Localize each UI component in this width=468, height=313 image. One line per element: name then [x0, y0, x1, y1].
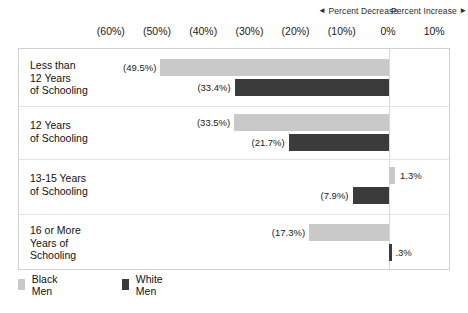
legend-item-black-men[interactable]: Black Men — [18, 278, 62, 291]
x-axis-tick-labels: (60%)(50%)(40%)(30%)(20%)(10%)0%10% — [0, 25, 468, 41]
legend-swatch-white-men — [122, 279, 129, 290]
percent-decrease-label: Percent Decrease — [329, 6, 399, 16]
chart-row: 12 Years of Schooling(33.5%)(21.7%) — [19, 106, 449, 159]
chart-row: 13-15 Years of Schooling1.3%(7.9%) — [19, 159, 449, 214]
category-label: 13-15 Years of Schooling — [30, 172, 88, 197]
right-arrow-icon: ► — [459, 6, 467, 15]
x-axis-tick-neg30: (30%) — [235, 25, 263, 37]
percent-decrease-annotation: ◄ Percent Decrease — [318, 6, 398, 16]
bar-value-black-men: (49.5%) — [123, 59, 160, 76]
legend-swatch-black-men — [18, 279, 25, 290]
left-arrow-icon: ◄ — [318, 6, 326, 15]
plot-area: Less than 12 Years of Schooling(49.5%)(3… — [18, 48, 450, 270]
x-axis-tick-neg10: (10%) — [328, 25, 356, 37]
bar-value-white-men: .3% — [390, 244, 411, 261]
bar-value-black-men: (17.3%) — [272, 224, 309, 241]
x-axis-tick-neg20: (20%) — [282, 25, 310, 37]
bar-black-men — [234, 114, 389, 131]
bar-white-men — [235, 79, 389, 96]
bar-value-white-men: (33.4%) — [197, 79, 234, 96]
bar-black-men — [160, 59, 389, 76]
chart-container: ◄ Percent Decrease Percent Increase ► (6… — [0, 0, 468, 313]
category-label: 12 Years of Schooling — [30, 119, 88, 144]
category-label: Less than 12 Years of Schooling — [30, 59, 88, 97]
x-axis-tick-neg60: (60%) — [97, 25, 125, 37]
percent-increase-annotation: Percent Increase ► — [391, 6, 467, 16]
bar-white-men — [289, 134, 389, 151]
x-axis-tick-neg50: (50%) — [143, 25, 171, 37]
legend-item-white-men[interactable]: White Men — [122, 278, 167, 291]
category-label: 16 or More Years of Schooling — [30, 224, 81, 262]
percent-increase-label: Percent Increase — [391, 6, 457, 16]
legend-label-black-men: Black Men — [32, 273, 62, 297]
bar-value-black-men: (33.5%) — [197, 114, 234, 131]
bar-white-men — [353, 187, 389, 204]
bar-value-white-men: (7.9%) — [321, 187, 353, 204]
chart-row: Less than 12 Years of Schooling(49.5%)(3… — [19, 49, 449, 106]
bar-value-white-men: (21.7%) — [251, 134, 288, 151]
bar-black-men — [309, 224, 389, 241]
direction-legend: ◄ Percent Decrease Percent Increase ► — [0, 6, 468, 20]
legend-label-white-men: White Men — [136, 273, 167, 297]
bar-value-black-men: 1.3% — [395, 167, 422, 184]
chart-row: 16 or More Years of Schooling(17.3%).3% — [19, 214, 449, 269]
x-axis-tick-neg40: (40%) — [189, 25, 217, 37]
x-axis-tick-0: 0% — [380, 25, 395, 37]
x-axis-tick-10: 10% — [424, 25, 445, 37]
